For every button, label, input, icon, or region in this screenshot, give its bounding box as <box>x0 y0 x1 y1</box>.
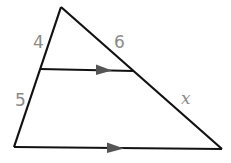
label-upper-left: 4 <box>33 32 44 52</box>
parallel-segment <box>40 69 134 71</box>
parallel-arrow-icon <box>107 143 124 154</box>
left-side <box>14 7 61 147</box>
triangle-diagram: 4 6 5 x <box>0 0 231 163</box>
right-side <box>61 7 222 149</box>
label-lower-right: x <box>181 88 191 108</box>
label-upper-right: 6 <box>114 32 125 52</box>
label-lower-left: 5 <box>15 90 26 110</box>
parallel-arrow-icon <box>96 65 112 76</box>
